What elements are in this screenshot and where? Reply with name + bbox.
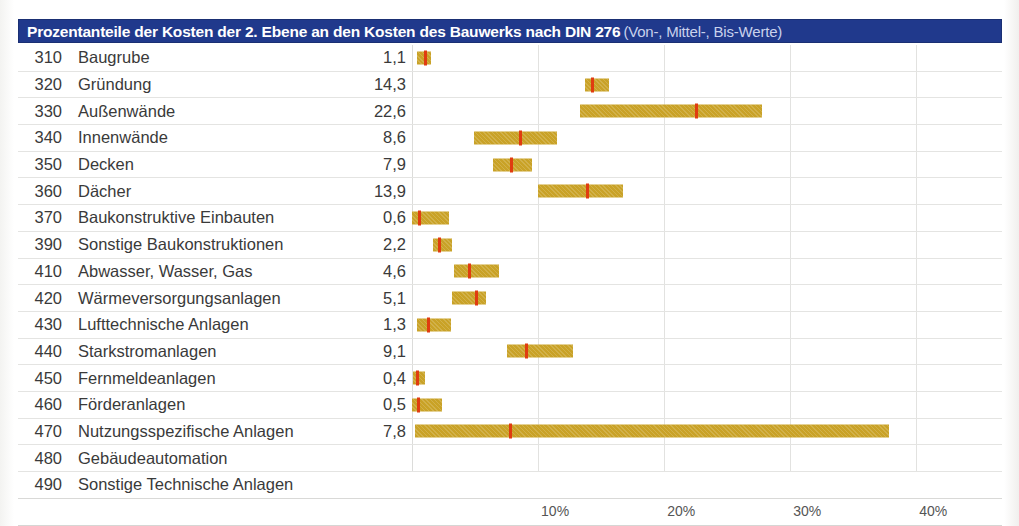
row-value: 5,1 — [336, 289, 412, 308]
mean-marker — [591, 77, 594, 92]
row-plot-cell — [412, 98, 1002, 124]
row-label: Lufttechnische Anlagen — [62, 315, 336, 334]
row-label: Sonstige Baukonstruktionen — [62, 235, 336, 254]
row-value: 2,2 — [336, 235, 412, 254]
row-plot-cell — [412, 339, 1002, 365]
table-row: 350Decken7,9 — [18, 152, 1002, 179]
row-plot-cell — [412, 285, 1002, 311]
mean-marker — [510, 157, 513, 172]
table-row: 460Förderanlagen0,5 — [18, 392, 1002, 419]
table-row: 330Außenwände22,6 — [18, 98, 1002, 125]
row-label: Abwasser, Wasser, Gas — [62, 262, 336, 281]
mean-marker — [468, 264, 471, 279]
row-label: Gebäudeautomation — [62, 449, 336, 468]
table-row: 470Nutzungsspezifische Anlagen7,8 — [18, 419, 1002, 446]
range-bar — [454, 265, 499, 278]
row-plot-cell — [412, 445, 1002, 471]
row-code: 350 — [18, 155, 62, 174]
page-subtitle: (Von-, Mittel-, Bis-Werte) — [623, 23, 782, 40]
row-plot-cell — [412, 152, 1002, 178]
row-code: 460 — [18, 395, 62, 414]
row-value: 0,6 — [336, 208, 412, 227]
row-code: 450 — [18, 369, 62, 388]
row-label: Starkstromanlagen — [62, 342, 336, 361]
table-row: 430Lufttechnische Anlagen1,3 — [18, 312, 1002, 339]
chart-title-bar: Prozentanteile der Kosten der 2. Ebene a… — [18, 19, 1002, 43]
page-title: Prozentanteile der Kosten der 2. Ebene a… — [27, 23, 620, 40]
row-label: Decken — [62, 155, 336, 174]
row-value: 1,1 — [336, 48, 412, 67]
axis-tick-label: 20% — [664, 503, 695, 519]
row-label: Dächer — [62, 182, 336, 201]
row-code: 370 — [18, 208, 62, 227]
row-plot-cell — [412, 72, 1002, 98]
chart-sheet: Prozentanteile der Kosten der 2. Ebene a… — [18, 19, 1002, 501]
row-value: 14,3 — [336, 75, 412, 94]
mean-marker — [417, 397, 420, 412]
row-label: Außenwände — [62, 102, 336, 121]
row-code: 490 — [18, 475, 62, 494]
row-value: 7,9 — [336, 155, 412, 174]
row-plot-cell — [412, 232, 1002, 258]
x-axis: 10%20%30%40% — [18, 499, 1002, 526]
table-row: 340Innenwände8,6 — [18, 125, 1002, 152]
row-code: 340 — [18, 128, 62, 147]
row-label: Wärmeversorgungsanlagen — [62, 289, 336, 308]
table-row: 410Abwasser, Wasser, Gas4,6 — [18, 259, 1002, 286]
mean-marker — [509, 424, 512, 439]
row-code: 480 — [18, 449, 62, 468]
chart-table: 310Baugrube1,1320Gründung14,3330Außenwän… — [18, 45, 1002, 498]
mean-marker — [475, 291, 478, 306]
mean-marker — [586, 184, 589, 199]
row-code: 430 — [18, 315, 62, 334]
row-code: 410 — [18, 262, 62, 281]
mean-marker — [438, 237, 441, 252]
table-row: 390Sonstige Baukonstruktionen2,2 — [18, 232, 1002, 259]
range-bar — [474, 131, 557, 144]
row-value: 1,3 — [336, 315, 412, 334]
mean-marker — [525, 344, 528, 359]
row-label: Innenwände — [62, 128, 336, 147]
range-bar — [507, 345, 574, 358]
row-code: 470 — [18, 422, 62, 441]
row-value: 8,6 — [336, 128, 412, 147]
table-row: 360Dächer13,9 — [18, 178, 1002, 205]
mean-marker — [695, 104, 698, 119]
row-plot-cell — [412, 365, 1002, 391]
row-plot-cell — [412, 205, 1002, 231]
row-code: 420 — [18, 289, 62, 308]
axis-tick-label: 40% — [916, 503, 947, 519]
row-value: 22,6 — [336, 102, 412, 121]
range-bar — [433, 238, 452, 251]
row-label: Förderanlagen — [62, 395, 336, 414]
row-list: 310Baugrube1,1320Gründung14,3330Außenwän… — [18, 45, 1002, 499]
row-plot-cell — [412, 472, 1002, 498]
row-value: 0,4 — [336, 369, 412, 388]
table-row: 370Baukonstruktive Einbauten0,6 — [18, 205, 1002, 232]
mean-marker — [424, 50, 427, 65]
row-value: 4,6 — [336, 262, 412, 281]
row-code: 390 — [18, 235, 62, 254]
row-plot-cell — [412, 312, 1002, 338]
table-row: 450Fernmeldeanlagen0,4 — [18, 365, 1002, 392]
row-label: Sonstige Technische Anlagen — [62, 475, 336, 494]
row-code: 320 — [18, 75, 62, 94]
row-code: 330 — [18, 102, 62, 121]
row-plot-cell — [412, 259, 1002, 285]
range-bar — [452, 292, 486, 305]
row-label: Gründung — [62, 75, 336, 94]
row-label: Nutzungsspezifische Anlagen — [62, 422, 336, 441]
row-code: 440 — [18, 342, 62, 361]
row-plot-cell — [412, 419, 1002, 445]
mean-marker — [427, 317, 430, 332]
row-label: Fernmeldeanlagen — [62, 369, 336, 388]
row-code: 310 — [18, 48, 62, 67]
range-bar — [538, 185, 622, 198]
range-bar — [580, 105, 763, 118]
table-row: 310Baugrube1,1 — [18, 45, 1002, 72]
range-bar — [415, 425, 889, 438]
table-row: 480Gebäudeautomation — [18, 445, 1002, 472]
row-label: Baukonstruktive Einbauten — [62, 208, 336, 227]
axis-tick-label: 30% — [790, 503, 821, 519]
row-code: 360 — [18, 182, 62, 201]
